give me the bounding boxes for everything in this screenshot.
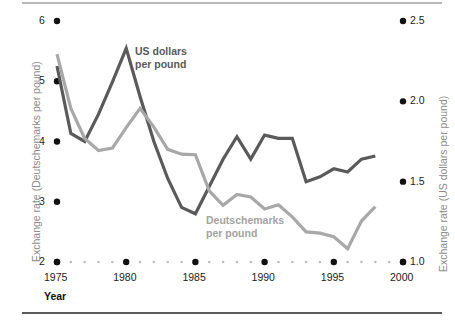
right-axis-title: Exchange rate (US dollars per pound) <box>437 96 449 272</box>
series-label-us-dollars-line2: per pound <box>135 58 187 71</box>
x-axis-tick-label: 1990 <box>252 271 275 283</box>
right-axis-tick-label: 1.5 <box>410 175 425 187</box>
x-axis-tick-label: 2000 <box>390 271 413 283</box>
series-label-deutschemarks: Deutschemarks per pound <box>206 214 284 240</box>
series-label-us-dollars-line1: US dollars <box>135 45 187 58</box>
x-axis-tick-label: 1985 <box>182 271 205 283</box>
x-axis-tick-label: 1980 <box>113 271 136 283</box>
line-chart-plot <box>0 0 455 320</box>
x-axis-title: Year <box>44 290 66 302</box>
x-axis-minor-ticks <box>70 261 391 264</box>
x-axis-tick-label: 1995 <box>321 271 344 283</box>
left-axis-tick-label: 6 <box>39 14 45 26</box>
right-axis-tick-label: 2.5 <box>410 14 425 26</box>
left-axis-title: Exchange rate (Deutschemarks per pound) <box>30 61 42 262</box>
right-axis-tick-label: 2.0 <box>410 94 425 106</box>
x-axis-major-tick-dots <box>54 259 406 265</box>
series-label-us-dollars: US dollars per pound <box>135 45 187 71</box>
series-label-deutschemarks-line2: per pound <box>206 227 284 240</box>
x-axis-tick-label: 1975 <box>44 271 67 283</box>
chart-figure: 23456 1.01.52.02.5 197519801985199019952… <box>0 0 455 320</box>
right-axis-tick-dots <box>400 18 406 265</box>
series-label-deutschemarks-line1: Deutschemarks <box>206 214 284 227</box>
right-axis-tick-label: 1.0 <box>410 255 425 267</box>
